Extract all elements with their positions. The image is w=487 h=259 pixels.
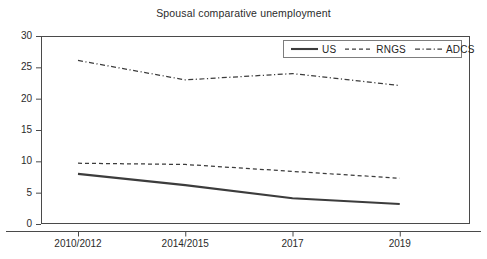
chart-legend: US RNGS ADCS [283, 40, 462, 58]
chart-screenshot: Spousal comparative unemployment 0510152… [0, 0, 487, 259]
legend-label-us: US [322, 44, 336, 55]
chart-canvas: 051015202530 2010/20122014/201520172019 [0, 0, 487, 259]
legend-label-adcs: ADCS [446, 44, 475, 55]
series-line-us [78, 174, 400, 204]
y-tick-label: 10 [21, 155, 33, 166]
legend-entry-us: US [291, 44, 336, 55]
legend-swatch-us-icon [291, 44, 318, 54]
x-tick-label: 2014/2015 [162, 238, 210, 249]
y-tick-label: 25 [21, 61, 33, 72]
legend-swatch-adcs-icon [415, 44, 442, 54]
x-tick-label: 2019 [389, 238, 412, 249]
series-line-rngs [78, 163, 400, 178]
legend-label-rngs: RNGS [376, 44, 406, 55]
series-line-adcs [78, 60, 400, 85]
y-tick-label: 0 [26, 218, 32, 229]
legend-swatch-rngs-icon [345, 44, 372, 54]
y-axis-ticks: 051015202530 [21, 30, 41, 229]
x-tick-label: 2010/2012 [54, 238, 102, 249]
y-tick-label: 15 [21, 124, 33, 135]
y-tick-label: 30 [21, 30, 33, 41]
x-tick-label: 2017 [281, 238, 304, 249]
y-tick-label: 20 [21, 93, 33, 104]
y-tick-label: 5 [26, 187, 32, 198]
series-lines [78, 60, 400, 204]
legend-entry-adcs: ADCS [415, 44, 475, 55]
legend-entry-rngs: RNGS [345, 44, 406, 55]
x-axis-ticks: 2010/20122014/201520172019 [54, 232, 411, 250]
